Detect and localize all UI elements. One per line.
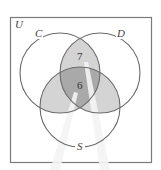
set-c-label: C (35, 27, 43, 39)
universe-label: U (15, 18, 24, 30)
venn-diagram: U C D S 7 6 (0, 0, 161, 170)
venn-svg: U C D S 7 6 (0, 0, 161, 170)
set-d-label: D (116, 27, 125, 39)
set-s-label: S (77, 140, 83, 152)
region-c-and-d-value: 7 (77, 50, 83, 62)
region-c-and-d-and-s-value: 6 (77, 79, 83, 91)
